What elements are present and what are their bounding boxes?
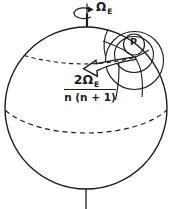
sphere-diagram [0,0,172,209]
equator-line [6,111,167,134]
figure-canvas: ΩE P 2ΩE n (n + 1) [0,0,172,209]
phase-speed-fraction: 2ΩE n (n + 1) [63,74,117,102]
numerator-main: 2Ω [74,72,93,87]
point-label: P [130,37,137,47]
fraction-numerator: 2ΩE [59,74,113,89]
fraction-denominator: n (n + 1) [63,90,117,103]
numerator-subscript: E [94,80,99,89]
rotation-subscript: E [107,7,112,16]
rotation-arrowhead-icon [88,6,94,12]
rotation-arrow-icon [74,6,94,18]
rotation-symbol: Ω [96,0,106,14]
rotation-rate-label: ΩE [96,1,111,13]
